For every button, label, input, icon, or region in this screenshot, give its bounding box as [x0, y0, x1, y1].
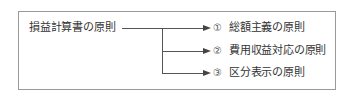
arrow-right-icon: [203, 70, 211, 76]
branch-label-2: 費用収益対応の原則: [229, 43, 326, 59]
root-connector: [122, 28, 204, 29]
arrow-right-icon: [203, 48, 211, 54]
branch-number-1: ①: [213, 21, 222, 35]
root-label: 損益計算書の原則: [29, 20, 115, 36]
branch-connector-2: [162, 51, 204, 52]
branch-connector-3: [162, 73, 204, 74]
branch-number-3: ③: [213, 66, 222, 80]
branch-label-1: 総額主義の原則: [229, 20, 305, 36]
arrow-right-icon: [203, 25, 211, 31]
branch-label-3: 区分表示の原則: [229, 65, 305, 81]
branch-number-2: ②: [213, 44, 222, 58]
